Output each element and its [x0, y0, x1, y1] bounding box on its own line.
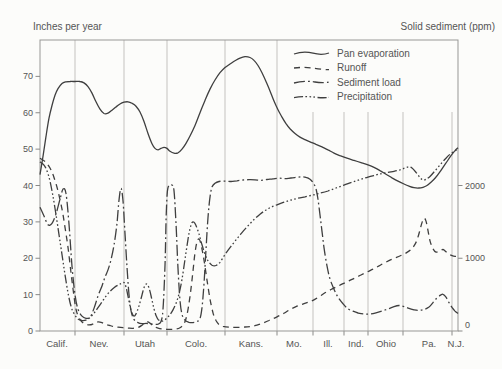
state-label-colo: Colo.: [185, 338, 207, 349]
legend-item-precipitation: Precipitation: [293, 92, 463, 102]
state-label-nev: Nev.: [90, 338, 109, 349]
legend-label: Runoff: [337, 62, 366, 73]
series-precipitation: [40, 150, 458, 322]
left-axis-tick-label: 40: [23, 181, 33, 191]
left-axis-tick-label: 20: [23, 253, 33, 263]
left-axis-tick-label: 60: [23, 108, 33, 118]
state-label-nj: N.J.: [448, 338, 465, 349]
state-label-mo: Mo.: [286, 338, 302, 349]
right-axis-tick-label: 1000: [465, 253, 485, 263]
pan-evaporation-line-sample-icon: [293, 49, 330, 57]
left-axis-tick-label: 50: [23, 144, 33, 154]
legend-item-sediment-load: Sediment load: [293, 77, 463, 87]
sediment-load-line-sample-icon: [293, 78, 330, 86]
state-label-ohio: Ohio: [376, 338, 396, 349]
runoff-line-sample-icon: [293, 64, 330, 72]
state-label-kans: Kans.: [239, 338, 263, 349]
left-axis-tick-label: 0: [28, 326, 33, 336]
legend-label: Sediment load: [337, 77, 401, 88]
legend-item-runoff: Runoff: [293, 63, 463, 73]
legend-label: Pan evaporation: [337, 48, 410, 59]
legend: Pan evaporation Runoff Sediment load Pre…: [293, 48, 463, 102]
series-runoff: [40, 158, 458, 329]
left-axis-tick-label: 10: [23, 290, 33, 300]
state-label-ill: Ill.: [323, 338, 333, 349]
legend-item-pan-evaporation: Pan evaporation: [293, 48, 463, 58]
precipitation-line-sample-icon: [293, 93, 330, 101]
state-label-calif: Calif.: [46, 338, 68, 349]
legend-label: Precipitation: [337, 91, 392, 102]
series-sediment-load: [40, 177, 458, 325]
left-axis-tick-label: 70: [23, 71, 33, 81]
chart-figure: Inches per year Solid sediment (ppm) 010…: [0, 0, 502, 369]
state-label-ind: Ind.: [348, 338, 364, 349]
state-label-utah: Utah: [135, 338, 155, 349]
left-axis-tick-label: 30: [23, 217, 33, 227]
right-axis-tick-label: 2000: [465, 181, 485, 191]
right-axis-tick-label: 0: [465, 320, 470, 330]
state-label-pa: Pa.: [422, 338, 436, 349]
